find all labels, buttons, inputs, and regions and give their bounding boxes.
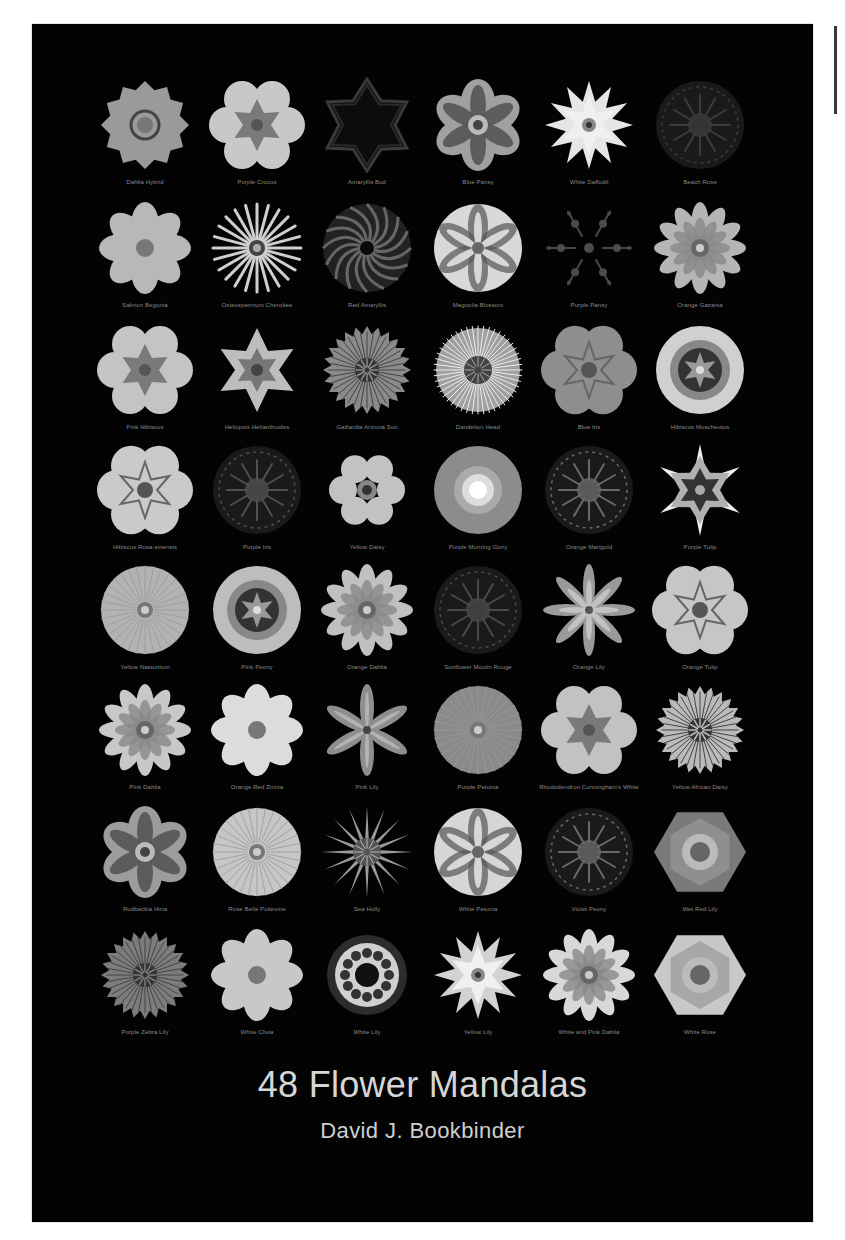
mandala-caption: Amaryllis Bud [348, 179, 386, 185]
mandala-image [652, 200, 748, 296]
mandala-caption: Orange Tulip [682, 664, 718, 670]
mandala-item: Amaryllis Bud [312, 77, 422, 199]
mandala-caption: Osteospermum Cherokee [222, 302, 293, 308]
mandala-item: Pink Lily [312, 682, 422, 804]
book-author: David J. Bookbinder [32, 1118, 813, 1144]
mandala-image [541, 442, 637, 538]
mandala-caption: White and Pink Dahlia [558, 1029, 619, 1035]
mandala-caption: Orange Marigold [566, 544, 612, 550]
mandala-caption: Rhododendron Cunningham's White [539, 784, 639, 790]
mandala-image [319, 682, 415, 778]
mandala-item: Blue Iris [534, 322, 644, 444]
mandala-caption: White Daffodil [570, 179, 609, 185]
mandala-item: Salmon Begonia [90, 200, 200, 322]
mandala-image [652, 562, 748, 658]
page-edge-mark [834, 26, 837, 114]
mandala-caption: Pink Hibiscus [126, 424, 163, 430]
book-title: 48 Flower Mandalas [32, 1064, 813, 1106]
mandala-image [652, 322, 748, 418]
mandala-item: Orange Red Zinnia [202, 682, 312, 804]
mandala-item: Purple Petunia [423, 682, 533, 804]
mandala-caption: Gaillardia Arizona Sun [336, 424, 398, 430]
mandala-image [97, 200, 193, 296]
mandala-caption: Hibiscus Rosa-sinensis [113, 544, 177, 550]
mandala-image [541, 562, 637, 658]
mandala-image [541, 927, 637, 1023]
mandala-caption: Purple Crocus [237, 179, 276, 185]
mandala-item: Yellow Nasturtium [90, 562, 200, 684]
mandala-image [652, 804, 748, 900]
mandala-image [209, 77, 305, 173]
mandala-item: Beach Rose [645, 77, 755, 199]
mandala-caption: White Rose [684, 1029, 716, 1035]
mandala-item: Yellow Lily [423, 927, 533, 1049]
mandala-image [652, 927, 748, 1023]
mandala-item: Heliopsis Helianthoides [202, 322, 312, 444]
mandala-caption: Red Amaryllis [348, 302, 386, 308]
mandala-item: Blue Pansy [423, 77, 533, 199]
mandala-image [97, 804, 193, 900]
mandala-image [319, 562, 415, 658]
mandala-caption: Beach Rose [683, 179, 717, 185]
mandala-item: Pink Dahlia [90, 682, 200, 804]
mandala-item: Gaillardia Arizona Sun [312, 322, 422, 444]
mandala-image [209, 322, 305, 418]
mandala-item: Purple Zebra Lily [90, 927, 200, 1049]
mandala-caption: Heliopsis Helianthoides [225, 424, 290, 430]
mandala-caption: Yellow Nasturtium [120, 664, 170, 670]
mandala-item: Dahlia Hybrid [90, 77, 200, 199]
mandala-caption: Purple Pansy [571, 302, 608, 308]
mandala-caption: Pink Peony [241, 664, 272, 670]
mandala-image [319, 927, 415, 1023]
mandala-item: Purple Morning Glory [423, 442, 533, 564]
mandala-caption: Rudbeckia Hirta [123, 906, 167, 912]
mandala-item: Orange Marigold [534, 442, 644, 564]
mandala-item: White Rose [645, 927, 755, 1049]
mandala-caption: White Lily [353, 1029, 380, 1035]
mandala-item: Yellow Daisy [312, 442, 422, 564]
mandala-caption: Purple Morning Glory [449, 544, 508, 550]
mandala-item: White Petunia [423, 804, 533, 926]
mandala-caption: Orange Lily [573, 664, 605, 670]
mandala-image [209, 442, 305, 538]
mandala-image [541, 322, 637, 418]
book-cover: Dahlia HybridPurple CrocusAmaryllis BudB… [32, 24, 813, 1222]
mandala-item: Rose Belle Poitevine [202, 804, 312, 926]
mandala-item: Purple Iris [202, 442, 312, 564]
mandala-image [430, 200, 526, 296]
mandala-image [541, 200, 637, 296]
mandala-image [319, 442, 415, 538]
mandala-image [430, 322, 526, 418]
mandala-image [209, 927, 305, 1023]
mandala-caption: Sea Holly [354, 906, 381, 912]
mandala-caption: Pink Dahlia [129, 784, 160, 790]
mandala-item: Pink Hibiscus [90, 322, 200, 444]
mandala-caption: Magnolia Blossom [453, 302, 504, 308]
mandala-item: Orange Lily [534, 562, 644, 684]
mandala-image [652, 682, 748, 778]
mandala-item: Dandelion Head [423, 322, 533, 444]
mandala-caption: Purple Iris [243, 544, 271, 550]
mandala-item: Wet Red Lily [645, 804, 755, 926]
mandala-image [97, 442, 193, 538]
mandala-image [430, 804, 526, 900]
mandala-caption: Purple Tulip [684, 544, 717, 550]
mandala-caption: White Clivia [241, 1029, 274, 1035]
mandala-image [97, 682, 193, 778]
mandala-image [97, 927, 193, 1023]
mandala-caption: Yellow African Daisy [672, 784, 728, 790]
mandala-image [97, 322, 193, 418]
mandala-image [430, 442, 526, 538]
mandala-image [652, 442, 748, 538]
mandala-caption: Dandelion Head [456, 424, 500, 430]
mandala-image [209, 804, 305, 900]
mandala-image [541, 804, 637, 900]
mandala-caption: Yellow Daisy [350, 544, 385, 550]
mandala-grid: Dahlia HybridPurple CrocusAmaryllis BudB… [32, 24, 813, 1064]
mandala-image [430, 682, 526, 778]
mandala-item: Pink Peony [202, 562, 312, 684]
mandala-item: White Clivia [202, 927, 312, 1049]
mandala-caption: Orange Dahlia [347, 664, 387, 670]
mandala-caption: Violet Peony [572, 906, 607, 912]
mandala-caption: Wet Red Lily [682, 906, 717, 912]
